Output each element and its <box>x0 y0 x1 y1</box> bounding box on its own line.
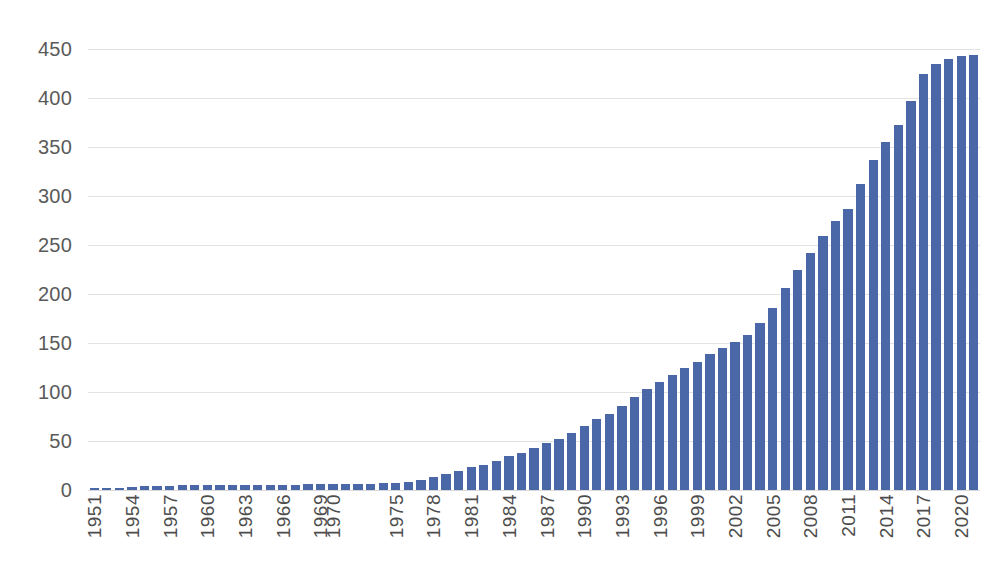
y-axis-tick-label: 400 <box>38 87 72 110</box>
bar <box>969 55 978 490</box>
bar <box>605 414 614 490</box>
bar <box>404 482 413 490</box>
x-axis-tick-label: 1963 <box>235 494 257 538</box>
bar <box>768 308 777 490</box>
bar <box>705 354 714 490</box>
bar <box>668 375 677 490</box>
bar <box>755 323 764 490</box>
bar <box>454 471 463 490</box>
bar <box>379 483 388 490</box>
bar <box>441 474 450 490</box>
x-axis-tick-label: 2014 <box>876 494 898 538</box>
bar-series <box>88 49 980 490</box>
bar <box>366 484 375 490</box>
bar <box>931 64 940 490</box>
y-axis: 050100150200250300350400450 <box>0 0 88 576</box>
bar <box>869 160 878 490</box>
bar <box>316 484 325 490</box>
bar <box>730 342 739 490</box>
bar <box>881 142 890 490</box>
bar <box>529 448 538 490</box>
bar <box>944 59 953 490</box>
bar <box>303 484 312 490</box>
x-axis-tick-label: 1996 <box>650 494 672 538</box>
bar <box>152 486 161 490</box>
x-axis-tick-label: 2008 <box>800 494 822 538</box>
x-axis-tick-label: 1954 <box>122 494 144 538</box>
y-axis-tick-label: 350 <box>38 136 72 159</box>
bar <box>843 209 852 490</box>
bar <box>492 461 501 490</box>
x-axis-tick-label: 2002 <box>725 494 747 538</box>
x-axis-tick-label: 1981 <box>461 494 483 538</box>
bar <box>228 485 237 490</box>
bar <box>580 426 589 490</box>
x-axis-tick-label: 1966 <box>273 494 295 538</box>
x-axis-tick-label: 2017 <box>913 494 935 538</box>
bar <box>592 419 601 490</box>
bar-chart-figure: 050100150200250300350400450 195119541957… <box>0 0 1008 576</box>
bar <box>140 486 149 490</box>
bar <box>567 433 576 490</box>
bar <box>680 368 689 490</box>
bar <box>278 485 287 490</box>
bar <box>856 184 865 490</box>
bar <box>215 485 224 490</box>
bar <box>806 253 815 490</box>
bar <box>906 101 915 490</box>
bar <box>781 288 790 490</box>
bar <box>517 453 526 490</box>
bar <box>479 465 488 490</box>
bar <box>818 236 827 490</box>
bar <box>630 397 639 490</box>
bar <box>957 56 966 490</box>
x-axis-tick-label: 1975 <box>386 494 408 538</box>
x-axis-tick-label: 1993 <box>612 494 634 538</box>
bar <box>90 488 99 490</box>
bar <box>416 480 425 490</box>
x-axis-tick-label: 1951 <box>84 494 106 538</box>
x-axis-tick-label: 2011 <box>838 494 860 537</box>
bar <box>328 484 337 490</box>
y-axis-tick-label: 450 <box>38 38 72 61</box>
bar <box>504 456 513 490</box>
bar <box>353 484 362 490</box>
bar <box>542 443 551 490</box>
bar <box>655 382 664 490</box>
bar <box>793 270 802 490</box>
x-axis-tick-label: 1987 <box>537 494 559 538</box>
x-axis-tick-label: 1990 <box>574 494 596 538</box>
y-axis-tick-label: 100 <box>38 381 72 404</box>
bar <box>429 477 438 490</box>
bar <box>178 485 187 490</box>
y-axis-tick-label: 50 <box>49 430 72 453</box>
y-axis-tick-label: 250 <box>38 234 72 257</box>
bar <box>617 406 626 490</box>
y-axis-tick-label: 200 <box>38 283 72 306</box>
gridline-0 <box>88 490 980 491</box>
bar <box>102 488 111 490</box>
bar <box>894 125 903 490</box>
plot-area <box>88 49 980 490</box>
bar <box>642 389 651 490</box>
bar <box>203 485 212 490</box>
bar <box>831 221 840 491</box>
bar <box>266 485 275 490</box>
x-axis-tick-label: 2005 <box>763 494 785 538</box>
x-axis-tick-label: 1978 <box>423 494 445 538</box>
bar <box>240 485 249 490</box>
bar <box>467 467 476 490</box>
bar <box>291 485 300 490</box>
bar <box>190 485 199 490</box>
x-axis-tick-label: 1960 <box>197 494 219 538</box>
y-axis-tick-label: 300 <box>38 185 72 208</box>
bar <box>253 485 262 490</box>
bar <box>115 488 124 490</box>
bar <box>693 362 702 490</box>
y-axis-tick-label: 150 <box>38 332 72 355</box>
bar <box>743 335 752 490</box>
bar <box>919 74 928 490</box>
x-axis-tick-label: 1984 <box>499 494 521 538</box>
x-axis-tick-label: 1970 <box>323 494 345 538</box>
bar <box>341 484 350 490</box>
